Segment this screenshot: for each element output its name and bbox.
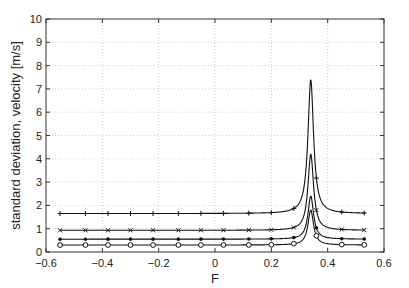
marker-series-plus bbox=[269, 210, 274, 215]
x-tick-label: −0.2 bbox=[148, 257, 170, 269]
marker-series-dot bbox=[362, 237, 366, 241]
marker-series-plus bbox=[198, 211, 203, 216]
marker-series-plus bbox=[246, 211, 251, 216]
x-tick-label: 0 bbox=[212, 257, 218, 269]
y-tick-label: 3 bbox=[36, 176, 42, 188]
y-tick-label: 10 bbox=[30, 13, 42, 25]
marker-series-plus bbox=[362, 211, 367, 216]
x-tick-label: 0.2 bbox=[264, 257, 279, 269]
marker-series-dot bbox=[84, 237, 88, 241]
marker-series-plus bbox=[176, 211, 181, 216]
marker-series-dot bbox=[199, 237, 203, 241]
marker-series-circle bbox=[246, 243, 251, 248]
x-tick-label: −0.6 bbox=[35, 257, 57, 269]
y-tick-label: 0 bbox=[36, 246, 42, 258]
marker-series-plus bbox=[105, 211, 110, 216]
marker-series-circle bbox=[83, 243, 88, 248]
y-axis-label: standard deviation, velocity [m/s] bbox=[8, 41, 23, 230]
marker-series-circle bbox=[314, 233, 319, 238]
marker-series-dot bbox=[340, 237, 344, 241]
marker-series-dot bbox=[222, 237, 226, 241]
marker-series-plus bbox=[128, 211, 133, 216]
y-tick-label: 7 bbox=[36, 83, 42, 95]
marker-series-dot bbox=[106, 237, 110, 241]
x-axis-label: F bbox=[211, 271, 219, 286]
marker-series-plus bbox=[58, 211, 63, 216]
marker-series-plus bbox=[83, 211, 88, 216]
marker-series-circle bbox=[221, 243, 226, 248]
marker-series-circle bbox=[176, 243, 181, 248]
marker-series-circle bbox=[151, 243, 156, 248]
y-tick-label: 8 bbox=[36, 60, 42, 72]
curve-series-circle bbox=[60, 210, 364, 245]
chart: −0.6−0.4−0.200.20.40.6012345678910 F sta… bbox=[0, 0, 409, 288]
x-tick-label: 0.6 bbox=[376, 257, 391, 269]
marker-series-plus bbox=[339, 209, 344, 214]
marker-series-circle bbox=[269, 242, 274, 247]
marker-series-circle bbox=[58, 243, 63, 248]
marker-series-dot bbox=[292, 236, 296, 240]
y-tick-label: 9 bbox=[36, 36, 42, 48]
marker-series-dot bbox=[315, 226, 319, 230]
x-tick-label: −0.4 bbox=[91, 257, 113, 269]
marker-series-circle bbox=[106, 243, 111, 248]
y-tick-label: 4 bbox=[36, 153, 42, 165]
y-tick-label: 6 bbox=[36, 106, 42, 118]
y-tick-label: 5 bbox=[36, 130, 42, 142]
marker-series-plus bbox=[221, 211, 226, 216]
marker-series-dot bbox=[247, 237, 251, 241]
marker-series-circle bbox=[362, 242, 367, 247]
marker-series-dot bbox=[177, 237, 181, 241]
x-tick-label: 0.4 bbox=[320, 257, 335, 269]
marker-series-dot bbox=[129, 237, 133, 241]
y-tick-label: 2 bbox=[36, 199, 42, 211]
curve-series-plus bbox=[60, 80, 364, 213]
data-markers bbox=[58, 176, 367, 248]
marker-series-dot bbox=[270, 237, 274, 241]
marker-series-plus bbox=[314, 176, 319, 181]
marker-series-circle bbox=[199, 243, 204, 248]
y-tick-label: 1 bbox=[36, 223, 42, 235]
marker-series-circle bbox=[128, 243, 133, 248]
marker-series-circle bbox=[291, 241, 296, 246]
marker-series-dot bbox=[151, 237, 155, 241]
marker-series-circle bbox=[339, 242, 344, 247]
marker-series-plus bbox=[151, 211, 156, 216]
marker-series-dot bbox=[58, 237, 62, 241]
data-curves bbox=[60, 80, 364, 245]
grid-lines bbox=[46, 19, 384, 252]
